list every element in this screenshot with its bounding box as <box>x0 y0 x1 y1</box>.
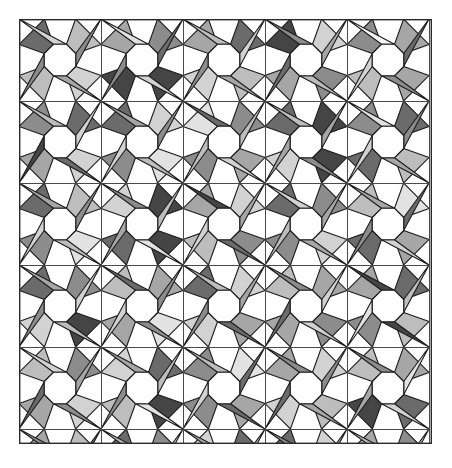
octagon-tile <box>126 126 157 157</box>
octagon-tile <box>44 290 75 321</box>
octagon-tile <box>208 290 239 321</box>
octagon-tile <box>290 44 321 75</box>
octagon-tile <box>372 126 403 157</box>
octagon-tile <box>372 208 403 239</box>
octagon-tile <box>290 208 321 239</box>
octagon-tile <box>290 126 321 157</box>
octagon-tile <box>290 290 321 321</box>
octagon-tile <box>372 290 403 321</box>
octagon-tile <box>208 126 239 157</box>
octagon-tile <box>126 44 157 75</box>
octagon-tile <box>126 208 157 239</box>
octagon-tile <box>44 126 75 157</box>
octagon-tile <box>44 208 75 239</box>
octagon-tile <box>44 44 75 75</box>
tessellation-svg <box>19 19 432 444</box>
octagon-tile <box>372 44 403 75</box>
octagon-tile <box>44 372 75 403</box>
octagon-tile <box>126 290 157 321</box>
octagon-tile <box>208 208 239 239</box>
tessellation-figure <box>19 19 432 444</box>
octagon-tile <box>208 372 239 403</box>
octagon-tile <box>372 372 403 403</box>
octagon-tile <box>208 44 239 75</box>
octagon-tile <box>126 372 157 403</box>
figure-canvas <box>0 0 452 468</box>
octagon-tile <box>290 372 321 403</box>
